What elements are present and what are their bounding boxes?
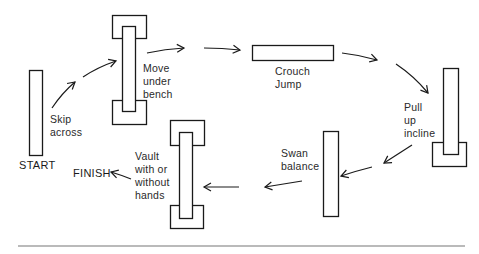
flow-arrow-9	[265, 181, 302, 187]
label-swan-balance: Swan balance	[281, 147, 319, 173]
flow-arrow-5	[342, 53, 377, 60]
start-bench	[30, 71, 43, 156]
label-crouch-jump: Crouch Jump	[275, 65, 310, 91]
label-vault: Vault with or without hands	[135, 150, 170, 202]
flow-arrow-4	[204, 48, 240, 50]
flow-arrow-7	[384, 145, 412, 163]
label-start: START	[19, 159, 56, 172]
label-move-under-bench: Move under bench	[143, 62, 173, 101]
flow-arrow-11	[111, 172, 131, 179]
flow-arrow-1	[52, 82, 75, 108]
flow-arrow-3	[147, 48, 184, 53]
label-finish: FINISH	[73, 167, 111, 180]
flow-arrow-2	[83, 61, 116, 77]
flow-arrow-6	[396, 64, 428, 93]
label-pull-up-incline: Pull up incline	[404, 101, 435, 140]
incline-bench	[433, 69, 467, 167]
bench-vault	[171, 121, 205, 229]
bench-move-under	[113, 16, 147, 125]
crouch-jump-plank	[253, 46, 334, 61]
flow-arrow-8	[341, 167, 372, 176]
swan-balance-bench	[324, 132, 339, 217]
label-skip-across: Skip across	[50, 113, 82, 139]
